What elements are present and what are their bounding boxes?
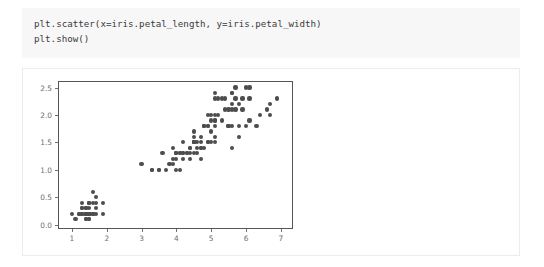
- scatter-point: [230, 102, 234, 106]
- scatter-point: [167, 162, 171, 166]
- x-tick-mark: [142, 229, 143, 232]
- scatter-point: [213, 124, 217, 128]
- y-tick-label: 0.0: [40, 220, 52, 229]
- scatter-point: [226, 124, 230, 128]
- scatter-point: [84, 212, 88, 216]
- y-tick-label: 1.5: [40, 138, 52, 147]
- x-tick-mark: [281, 229, 282, 232]
- scatter-point: [237, 135, 241, 139]
- x-tick-label: 5: [209, 234, 214, 243]
- scatter-point: [70, 212, 74, 216]
- x-tick-mark: [176, 229, 177, 232]
- scatter-point: [91, 212, 95, 216]
- scatter-point: [268, 102, 272, 106]
- x-tick-label: 7: [278, 234, 283, 243]
- scatter-point: [171, 146, 175, 150]
- scatter-point: [223, 107, 227, 111]
- x-tick-label: 4: [174, 234, 179, 243]
- scatter-point: [230, 107, 234, 111]
- scatter-point: [101, 201, 105, 205]
- scatter-point: [268, 113, 272, 117]
- scatter-point: [199, 135, 203, 139]
- scatter-point: [178, 168, 182, 172]
- scatter-point: [188, 146, 192, 150]
- scatter-point: [220, 118, 224, 122]
- y-tick-label: 0.5: [40, 193, 52, 202]
- scatter-point: [240, 107, 244, 111]
- scatter-point: [247, 118, 251, 122]
- scatter-point: [247, 85, 251, 89]
- scatter-point: [213, 91, 217, 95]
- x-tick-label: 6: [244, 234, 249, 243]
- scatter-point: [73, 217, 77, 221]
- scatter-point: [199, 157, 203, 161]
- scatter-point: [91, 201, 95, 205]
- scatter-point: [174, 157, 178, 161]
- scatter-point: [265, 107, 269, 111]
- scatter-point: [230, 146, 234, 150]
- scatter-point: [213, 135, 217, 139]
- scatter-point: [195, 151, 199, 155]
- x-tick-label: 1: [70, 234, 75, 243]
- x-tick-label: 3: [139, 234, 144, 243]
- y-tick-mark: [55, 225, 58, 226]
- x-tick-label: 2: [104, 234, 109, 243]
- scatter-point: [209, 118, 213, 122]
- scatter-point: [188, 157, 192, 161]
- scatter-point: [244, 124, 248, 128]
- x-tick-mark: [107, 229, 108, 232]
- scatter-point: [216, 96, 220, 100]
- y-tick-mark: [55, 197, 58, 198]
- scatter-point: [192, 129, 196, 133]
- scatter-point: [192, 135, 196, 139]
- y-tick-mark: [55, 170, 58, 171]
- scatter-point: [80, 201, 84, 205]
- x-tick-mark: [246, 229, 247, 232]
- scatter-point: [233, 85, 237, 89]
- scatter-point: [258, 113, 262, 117]
- y-tick-label: 2.0: [40, 110, 52, 119]
- scatter-point: [213, 118, 217, 122]
- x-tick-mark: [72, 229, 73, 232]
- x-tick-mark: [211, 229, 212, 232]
- scatter-point: [240, 96, 244, 100]
- scatter-point: [237, 102, 241, 106]
- scatter-point: [230, 91, 234, 95]
- scatter-point: [216, 113, 220, 117]
- code-line-2: plt.show(): [34, 31, 508, 46]
- scatter-point: [233, 107, 237, 111]
- scatter-point: [247, 96, 251, 100]
- y-tick-mark: [55, 115, 58, 116]
- scatter-point: [91, 190, 95, 194]
- y-tick-label: 2.5: [40, 83, 52, 92]
- scatter-point: [164, 168, 168, 172]
- scatter-point: [275, 96, 279, 100]
- y-tick-mark: [55, 88, 58, 89]
- scatter-point: [237, 124, 241, 128]
- y-tick-label: 1.0: [40, 165, 52, 174]
- scatter-point: [94, 195, 98, 199]
- scatter-point: [101, 212, 105, 216]
- scatter-point: [206, 113, 210, 117]
- y-tick-mark: [55, 142, 58, 143]
- code-line-1: plt.scatter(x=iris.petal_length, y=iris.…: [34, 16, 508, 31]
- scatter-point: [202, 146, 206, 150]
- scatter-point: [94, 206, 98, 210]
- scatter-point: [233, 96, 237, 100]
- scatter-point: [157, 168, 161, 172]
- notebook-cell: plt.scatter(x=iris.petal_length, y=iris.…: [0, 0, 544, 267]
- code-input-block[interactable]: plt.scatter(x=iris.petal_length, y=iris.…: [22, 8, 520, 58]
- scatter-point: [209, 129, 213, 133]
- scatter-point: [160, 151, 164, 155]
- scatter-point: [206, 124, 210, 128]
- scatter-point: [254, 124, 258, 128]
- scatter-point: [199, 140, 203, 144]
- scatter-plot-canvas: [58, 81, 293, 229]
- matplotlib-figure: 0.00.51.01.52.02.51234567: [23, 69, 323, 257]
- scatter-point: [213, 140, 217, 144]
- scatter-point: [223, 96, 227, 100]
- scatter-point: [139, 162, 143, 166]
- scatter-point: [181, 140, 185, 144]
- scatter-point: [150, 168, 154, 172]
- scatter-point: [181, 157, 185, 161]
